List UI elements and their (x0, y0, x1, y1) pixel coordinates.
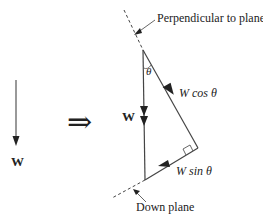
left-weight-label: W (11, 155, 24, 168)
w-cos-theta-label: W cos θ (179, 87, 217, 99)
down-plane-label: Down plane (136, 201, 194, 213)
angle-theta-label: θ (146, 66, 151, 77)
implies-symbol: ⇒ (67, 107, 92, 137)
down-plane-dashed-line (112, 180, 145, 198)
triangle-weight-label: W (122, 110, 135, 123)
perpendicular-leader-arrow (134, 20, 155, 35)
perpendicular-to-plane-label: Perpendicular to plane (157, 12, 263, 24)
left-weight-vector (13, 80, 20, 146)
w-sin-theta-label: W sin θ (176, 165, 212, 177)
